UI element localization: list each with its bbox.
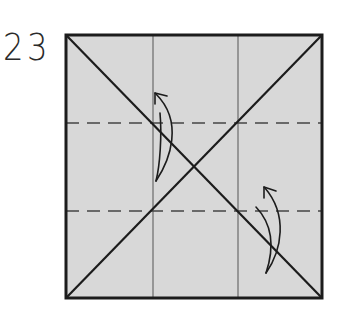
origami-diagram <box>0 0 345 324</box>
